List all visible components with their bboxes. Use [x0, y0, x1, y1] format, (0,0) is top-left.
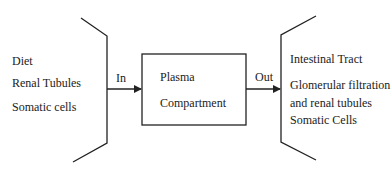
- plasma-compartment-box: [142, 54, 246, 125]
- output-renal-tubules: and renal tubules: [290, 96, 372, 110]
- output-somatic-cells: Somatic Cells: [290, 113, 357, 127]
- output-intestinal-tract: Intestinal Tract: [290, 52, 362, 66]
- left-bracket: [73, 18, 107, 162]
- compartment-line1: Plasma: [160, 70, 195, 84]
- input-somatic-cells: Somatic cells: [12, 100, 76, 114]
- out-label: Out: [255, 70, 273, 84]
- compartment-line2: Compartment: [160, 96, 226, 110]
- input-renal-tubules: Renal Tubules: [12, 76, 81, 90]
- input-diet: Diet: [12, 54, 33, 68]
- in-label: In: [116, 71, 126, 85]
- output-glomerular-filtration: Glomerular filtration: [290, 78, 390, 92]
